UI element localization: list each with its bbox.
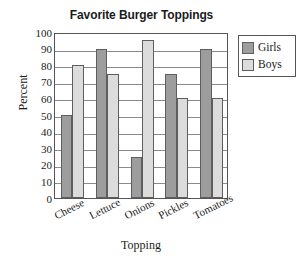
legend-label: Girls (258, 42, 281, 54)
boys-swatch (242, 59, 254, 71)
plot-area (54, 33, 228, 199)
chart-title: Favorite Burger Toppings (54, 8, 229, 22)
y-axis-tick-label: 60 (26, 94, 52, 105)
legend-item-girls: Girls (242, 39, 292, 56)
y-axis-tick-label: 50 (26, 111, 52, 122)
y-axis-tick-label: 0 (26, 194, 52, 205)
legend-label: Boys (258, 59, 282, 71)
bar-lettuce-boys (107, 74, 119, 199)
bar-cheese-boys (72, 65, 84, 198)
bar-cheese-girls (61, 115, 73, 198)
y-axis-tick-labels: 1009080706050403020100 (22, 33, 52, 199)
y-axis-tick-label: 70 (26, 77, 52, 88)
y-axis-tick-label: 90 (26, 44, 52, 55)
y-axis-tick-label: 30 (26, 144, 52, 155)
y-axis-tick-label: 40 (26, 127, 52, 138)
y-axis-tick-label: 80 (26, 61, 52, 72)
x-axis-tick-label-lettuce: Lettuce (87, 196, 122, 222)
bar-pickles-girls (165, 74, 177, 199)
bar-onions-boys (142, 40, 154, 198)
bar-pickles-boys (177, 98, 189, 198)
bar-onions-girls (131, 157, 143, 199)
legend-item-boys: Boys (242, 56, 292, 73)
chart-legend: GirlsBoys (238, 35, 296, 77)
bar-tomatoes-boys (212, 98, 224, 198)
x-axis-tick-label-onions: Onions (122, 196, 156, 221)
x-axis-title: Topping (54, 238, 228, 253)
bar-lettuce-girls (96, 49, 108, 198)
x-axis-tick-label-cheese: Cheese (52, 196, 86, 221)
x-axis-tick-label-pickles: Pickles (157, 196, 191, 221)
bar-tomatoes-girls (200, 49, 212, 198)
y-axis-tick-label: 10 (26, 177, 52, 188)
y-axis-tick-label: 100 (26, 28, 52, 39)
girls-swatch (242, 42, 254, 54)
y-axis-tick-label: 20 (26, 160, 52, 171)
chart-figure: Favorite Burger Toppings Percent 1009080… (0, 0, 302, 260)
